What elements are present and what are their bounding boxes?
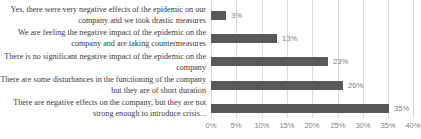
bar-value-label: 23%: [333, 57, 348, 66]
x-tick-label: 10%: [254, 120, 269, 131]
x-tick-label: 0%: [206, 120, 217, 131]
x-tick-label: 20%: [304, 120, 319, 131]
category-axis: Yes, there were very negative effects of…: [0, 0, 209, 118]
bar-value-label: 3%: [231, 11, 242, 20]
category-label: There are some disturbances in the funct…: [0, 75, 206, 96]
category-label: There is no significant negative impact …: [0, 52, 206, 73]
bar-value-label: 26%: [348, 81, 363, 90]
category-label: We are feeling the negative impact of th…: [0, 28, 206, 49]
bar-value-label: 13%: [282, 34, 297, 43]
x-tick-label: 5%: [231, 120, 242, 131]
category-label: Yes, there were very negative effects of…: [0, 5, 206, 26]
x-tick-label: 35%: [380, 120, 395, 131]
bar[interactable]: [211, 81, 343, 90]
bar[interactable]: [211, 34, 277, 43]
bar[interactable]: [211, 57, 328, 66]
bar[interactable]: [211, 11, 226, 20]
x-tick-label: 15%: [279, 120, 294, 131]
gridline-30: [363, 0, 364, 118]
bar-chart: Yes, there were very negative effects of…: [0, 0, 421, 139]
gridline-35: [388, 0, 389, 118]
x-tick-label: 30%: [355, 120, 370, 131]
x-tick-label: 25%: [330, 120, 345, 131]
bar[interactable]: [211, 104, 389, 113]
category-label: There are negative effects on the compan…: [0, 98, 206, 119]
plot-area: 3% 13% 23% 26% 35%: [211, 0, 414, 118]
bar-value-label: 35%: [394, 104, 409, 113]
value-axis: 0% 5% 10% 15% 20% 25% 30% 35% 40%: [211, 120, 414, 134]
x-tick-label: 40%: [405, 120, 420, 131]
gridline-40: [413, 0, 414, 118]
